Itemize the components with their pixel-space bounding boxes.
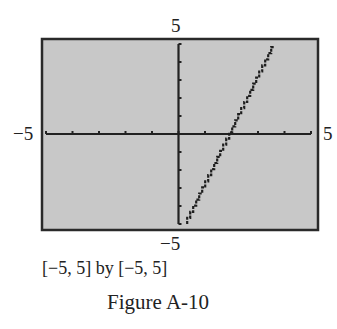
figure-title: Figure A-10 [107, 290, 209, 315]
window-range-label: [−5, 5] by [−5, 5] [42, 258, 167, 279]
calculator-graph [0, 0, 337, 329]
